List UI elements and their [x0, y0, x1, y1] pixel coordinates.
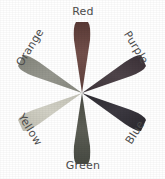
- petal-label-red: Red: [63, 6, 103, 17]
- petal-red: [74, 22, 91, 93]
- color-wheel-diagram: Red Purple Blue Green Yellow Orange: [0, 0, 165, 179]
- petal-green: [74, 93, 91, 164]
- petal-group: [0, 0, 165, 179]
- petal-label-green: Green: [61, 160, 105, 171]
